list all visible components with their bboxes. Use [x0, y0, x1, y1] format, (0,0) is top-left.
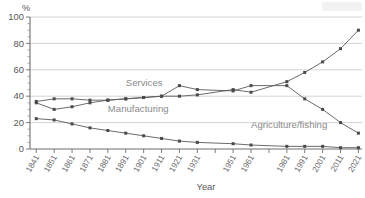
data-point-marker: [71, 97, 74, 100]
data-point-marker: [357, 132, 360, 135]
data-point-marker: [142, 134, 145, 137]
data-point-marker: [250, 144, 253, 147]
data-point-marker: [88, 126, 91, 129]
data-point-marker: [250, 91, 253, 94]
data-point-marker: [339, 121, 342, 124]
data-point-marker: [321, 145, 324, 148]
data-point-marker: [142, 96, 145, 99]
data-point-marker: [339, 146, 342, 149]
data-point-marker: [88, 99, 91, 102]
data-point-marker: [160, 95, 163, 98]
y-axis-unit-label: %: [22, 3, 30, 13]
series-annotation-label: Services: [126, 77, 163, 88]
data-point-marker: [196, 93, 199, 96]
y-axis-tick-label: 80: [14, 38, 24, 49]
data-point-marker: [285, 80, 288, 83]
data-point-marker: [53, 108, 56, 111]
data-point-marker: [357, 146, 360, 149]
data-point-marker: [178, 95, 181, 98]
data-point-marker: [303, 97, 306, 100]
data-point-marker: [124, 97, 127, 100]
data-point-marker: [71, 122, 74, 125]
data-point-marker: [106, 129, 109, 132]
chart-canvas: 020406080100 184118511861187118811891190…: [0, 0, 365, 198]
data-point-marker: [196, 141, 199, 144]
data-point-marker: [88, 101, 91, 104]
data-point-marker: [303, 145, 306, 148]
y-axis-tick-label: 60: [14, 64, 24, 75]
data-point-marker: [339, 47, 342, 50]
y-axis-tick-label: 40: [14, 90, 24, 101]
data-point-marker: [53, 97, 56, 100]
data-point-marker: [232, 142, 235, 145]
y-axis-tick-label: 0: [19, 143, 24, 154]
x-axis-title: Year: [197, 181, 216, 192]
data-point-marker: [178, 84, 181, 87]
y-axis-tick-label: 20: [14, 117, 24, 128]
data-point-marker: [357, 29, 360, 32]
data-point-marker: [232, 89, 235, 92]
data-point-marker: [285, 84, 288, 87]
data-point-marker: [196, 88, 199, 91]
data-point-marker: [321, 60, 324, 63]
line-chart: 020406080100 184118511861187118811891190…: [0, 0, 365, 198]
data-point-marker: [303, 71, 306, 74]
data-point-marker: [285, 145, 288, 148]
data-point-marker: [53, 118, 56, 121]
data-point-marker: [35, 117, 38, 120]
data-point-marker: [106, 99, 109, 102]
data-point-marker: [250, 84, 253, 87]
scan-artifact-top-right: [322, 2, 362, 11]
data-point-marker: [124, 132, 127, 135]
series-annotation-label: Manufacturing: [108, 103, 169, 114]
data-point-marker: [160, 137, 163, 140]
data-point-marker: [178, 140, 181, 143]
series-annotation-label: Agriculture/fishing: [251, 119, 327, 130]
data-point-marker: [321, 108, 324, 111]
data-point-marker: [71, 105, 74, 108]
data-point-marker: [35, 100, 38, 103]
